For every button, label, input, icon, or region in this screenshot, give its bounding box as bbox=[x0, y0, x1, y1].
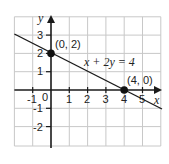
y-tick-label: -2 bbox=[33, 121, 43, 133]
y-tick-label: 3 bbox=[37, 29, 43, 41]
point-0-2 bbox=[47, 50, 55, 58]
y-tick-label: 1 bbox=[37, 65, 43, 77]
point-label-4-0: (4, 0) bbox=[127, 74, 153, 86]
x-tick-label: 4 bbox=[121, 93, 127, 105]
origin-label: 0 bbox=[42, 91, 48, 103]
y-axis-arrow-icon bbox=[47, 15, 55, 23]
point-label-0-2: (0, 2) bbox=[55, 38, 81, 50]
x-tick-label: 2 bbox=[84, 93, 90, 105]
y-axis-label: y bbox=[37, 11, 44, 25]
x-tick-label: 1 bbox=[66, 93, 72, 105]
coordinate-plane: -1 1 2 3 4 5 0 3 2 1 -1 -2 y x (0, 2) (4… bbox=[0, 0, 169, 164]
y-tick-label: -1 bbox=[33, 102, 43, 114]
equation-label: x + 2y = 4 bbox=[83, 55, 135, 69]
point-4-0 bbox=[120, 86, 128, 94]
x-tick-label: 3 bbox=[103, 93, 109, 105]
